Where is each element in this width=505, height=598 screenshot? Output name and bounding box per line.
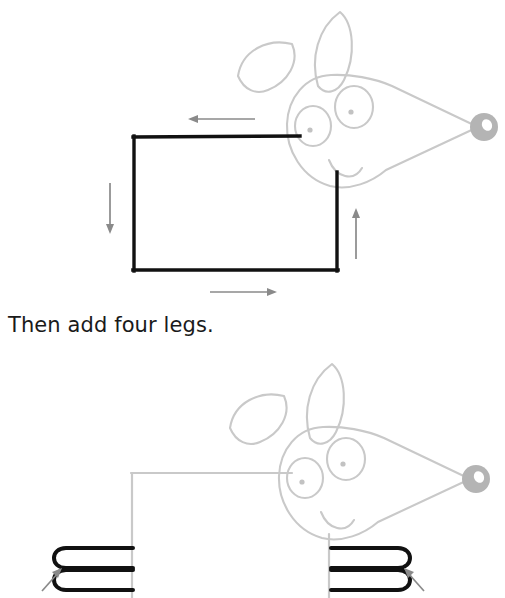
leg-front-lower [54,570,133,590]
mouse-eye-left-icon-2 [287,458,323,498]
mouse-ear-left-icon [238,42,295,91]
drawing-step-panel-legs [0,348,505,598]
instruction-caption: Then add four legs. [8,308,488,342]
mouse-head-outline-2 [279,427,470,540]
mouse-pupil-right [348,109,353,114]
mouse-smile [329,160,362,176]
drawing-canvas-body-step [0,0,505,300]
mouse-eye-right-icon [335,86,373,128]
body-rectangle-group [133,136,338,271]
arrow-right-up-icon [352,208,360,259]
legs-group [54,548,410,590]
mouse-eye-right-icon-2 [327,438,365,480]
drawing-canvas-legs-step [0,348,505,598]
arrow-bottom-right-icon [210,288,277,296]
mouse-ear-left-icon-2 [230,394,287,443]
drawing-step-panel-body [0,0,505,300]
mouse-smile-2 [321,512,354,528]
mouse-ear-right-icon-2 [307,364,344,444]
mouse-eye-left-icon [295,106,331,146]
leg-back-upper [331,548,410,568]
mouse-head-outline [287,75,478,188]
arrow-left-down-icon [106,183,114,234]
leg-front-upper [54,548,133,568]
mouse-nose-group [470,113,498,141]
existing-drawing-group [131,364,470,598]
mouse-nose-group-2 [462,465,490,493]
arrow-top-left-icon [188,115,255,123]
mouse-pupil-left [307,127,312,132]
mouse-head-group [238,12,478,187]
leg-back-lower [331,570,410,590]
mouse-pupil-left-2 [299,479,304,484]
mouse-pupil-right-2 [340,461,345,466]
mouse-ear-right-icon [315,12,352,92]
body-rect-top-edge [133,136,300,137]
